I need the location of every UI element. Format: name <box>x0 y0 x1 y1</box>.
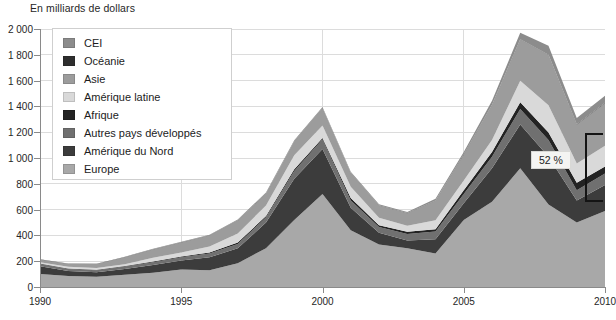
y-axis-labels: 02004006008001 0001 2001 4001 6001 8002 … <box>0 0 33 320</box>
legend-item[interactable]: Autres pays développés <box>63 124 231 142</box>
y-tick-label: 200 <box>0 256 33 267</box>
legend-swatch-icon <box>63 110 75 120</box>
x-tick <box>464 287 465 293</box>
x-tick-label: 2005 <box>453 296 475 307</box>
y-tick-label: 1 200 <box>0 127 33 138</box>
legend-item[interactable]: Amérique latine <box>63 88 231 106</box>
percent-bracket <box>585 133 603 202</box>
y-tick-label: 1 600 <box>0 75 33 86</box>
legend-item-label: Autres pays développés <box>84 128 201 139</box>
legend-swatch-icon <box>63 38 75 48</box>
y-tick-label: 1 000 <box>0 153 33 164</box>
y-tick-label: 600 <box>0 204 33 215</box>
y-tick <box>34 210 41 211</box>
x-tick <box>40 287 41 293</box>
bracket-bottom-arm <box>585 200 603 202</box>
y-tick <box>34 184 41 185</box>
percent-annotation-label: 52 % <box>531 151 571 169</box>
x-tick <box>323 287 324 293</box>
x-tick-label: 2010 <box>594 296 616 307</box>
legend-swatch-icon <box>63 92 75 102</box>
y-tick <box>34 132 41 133</box>
legend-swatch-icon <box>63 146 75 156</box>
x-tick-label: 1990 <box>29 296 51 307</box>
legend-item[interactable]: Asie <box>63 70 231 88</box>
y-tick <box>34 235 41 236</box>
y-tick <box>34 106 41 107</box>
legend-item[interactable]: Afrique <box>63 106 231 124</box>
legend-item[interactable]: CEI <box>63 34 231 52</box>
y-tick-label: 0 <box>0 282 33 293</box>
y-tick-label: 1 400 <box>0 101 33 112</box>
x-tick-label: 1995 <box>170 296 192 307</box>
bracket-top-arm <box>585 133 603 135</box>
y-tick <box>34 29 41 30</box>
y-tick-label: 400 <box>0 230 33 241</box>
legend-item[interactable]: Europe <box>63 160 231 178</box>
bracket-left-stem <box>585 133 587 202</box>
legend-item[interactable]: Amérique du Nord <box>63 142 231 160</box>
legend-item-label: Afrique <box>84 110 119 121</box>
legend-item-label: Europe <box>84 164 119 175</box>
legend-item-label: Amérique du Nord <box>84 146 173 157</box>
x-tick <box>605 287 606 293</box>
y-tick-label: 1 800 <box>0 49 33 60</box>
legend-item-label: Asie <box>84 74 105 85</box>
y-tick-label: 800 <box>0 178 33 189</box>
legend-item[interactable]: Océanie <box>63 52 231 70</box>
legend-item-label: CEI <box>84 38 102 49</box>
x-tick-label: 2000 <box>311 296 333 307</box>
y-tick-label: 2 000 <box>0 24 33 35</box>
legend-swatch-icon <box>63 164 75 174</box>
legend-swatch-icon <box>63 74 75 84</box>
axis-unit-title: En milliards de dollars <box>30 2 135 14</box>
legend-item-label: Océanie <box>84 56 125 67</box>
x-tick <box>181 287 182 293</box>
legend-item-label: Amérique latine <box>84 92 160 103</box>
y-tick <box>34 158 41 159</box>
y-tick <box>34 81 41 82</box>
legend-box: CEIOcéanieAsieAmérique latineAfriqueAutr… <box>52 28 232 180</box>
legend-swatch-icon <box>63 128 75 138</box>
y-tick <box>34 55 41 56</box>
legend-swatch-icon <box>63 56 75 66</box>
y-tick <box>34 261 41 262</box>
